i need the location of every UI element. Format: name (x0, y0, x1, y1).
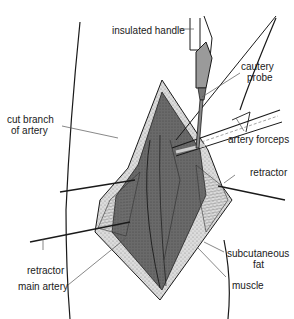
label-cautery-probe-line1: cautery (241, 61, 274, 72)
label-subcutaneous-fat-line1: subcutaneous (227, 248, 289, 259)
label-cautery-probe-line2: probe (247, 72, 273, 83)
insulated-handle (190, 18, 200, 50)
label-subcutaneous-fat-line2: fat (253, 259, 264, 270)
label-retractor-left: retractor (27, 265, 64, 276)
cautery-probe-body (196, 42, 212, 88)
label-muscle: muscle (232, 280, 264, 291)
label-cut-branch-line1: cut branch (7, 114, 54, 125)
surgical-diagram: insulated handle cautery probe cut branc… (0, 0, 294, 319)
label-cut-branch-line2: of artery (11, 125, 48, 136)
label-retractor-right: retractor (250, 167, 287, 178)
label-main-artery: main artery (18, 281, 68, 292)
label-insulated-handle: insulated handle (112, 25, 185, 36)
body-contour-left (66, 22, 80, 319)
label-artery-forceps: artery forceps (228, 134, 289, 145)
